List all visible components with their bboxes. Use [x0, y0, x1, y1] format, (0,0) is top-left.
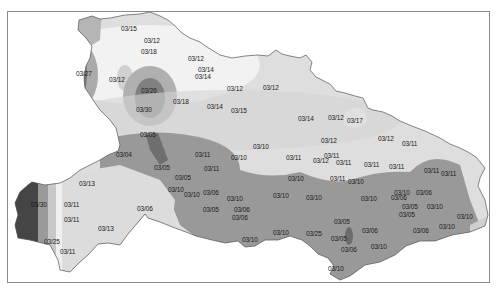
date-label: 03/10 [253, 143, 269, 150]
date-label: 03/10 [288, 175, 304, 182]
date-label: 03/05 [334, 218, 350, 225]
date-label: 03/10 [348, 178, 364, 185]
date-label: 03/11 [195, 151, 210, 158]
date-label: 03/12 [227, 85, 243, 92]
date-label: 03/15 [231, 107, 247, 114]
date-label: 03/10 [231, 154, 247, 161]
date-label: 03/05 [154, 164, 170, 171]
date-label: 03/06 [137, 205, 153, 212]
date-label: 03/30 [31, 201, 47, 208]
date-label: 03/15 [121, 25, 137, 32]
date-label: 03/05 [399, 211, 415, 218]
date-label: 03/12 [188, 55, 204, 62]
date-label: 03/06 [234, 206, 250, 213]
date-label: 03/10 [273, 192, 289, 199]
date-label: 03/05 [402, 203, 418, 210]
date-label: 03/04 [116, 151, 132, 158]
date-label: 03/13 [98, 225, 114, 232]
date-label: 03/11 [364, 161, 379, 168]
date-label: 03/11 [64, 216, 79, 223]
date-label: 03/05 [140, 131, 156, 138]
date-label: 03/11 [64, 201, 79, 208]
date-label: 03/11 [204, 165, 219, 172]
date-label: 03/12 [321, 137, 337, 144]
date-label: 03/06 [362, 227, 378, 234]
date-label: 03/25 [44, 238, 60, 245]
date-label: 03/06 [232, 214, 248, 221]
date-label: 03/10 [328, 265, 344, 272]
date-label: 03/06 [413, 227, 429, 234]
date-label: 03/10 [427, 203, 443, 210]
date-label: 03/10 [361, 195, 377, 202]
date-label: 03/12 [378, 135, 394, 142]
date-label: 03/10 [184, 191, 200, 198]
date-label: 03/26 [141, 87, 157, 94]
date-label: 03/11 [286, 154, 301, 161]
date-label: 03/05 [331, 235, 347, 242]
date-label: 03/14 [298, 115, 314, 122]
date-label: 03/27 [76, 70, 92, 77]
date-label: 03/10 [457, 213, 473, 220]
date-label: 03/11 [336, 159, 351, 166]
date-label: 03/11 [441, 170, 456, 177]
date-label: 03/11 [60, 248, 75, 255]
date-label: 03/10 [227, 195, 243, 202]
date-label: 03/11 [424, 167, 439, 174]
date-label: 03/12 [328, 114, 344, 121]
date-label: 03/10 [273, 229, 289, 236]
date-label: 03/10 [439, 223, 455, 230]
date-label: 03/11 [330, 175, 345, 182]
date-label: 03/14 [198, 66, 214, 73]
date-label: 03/14 [195, 73, 211, 80]
date-label: 03/12 [109, 76, 125, 83]
date-label: 03/06 [341, 246, 357, 253]
date-label: 03/30 [136, 106, 152, 113]
date-label: 03/13 [79, 180, 95, 187]
date-label: 03/06 [391, 194, 407, 201]
date-label: 03/12 [263, 84, 279, 91]
date-label: 03/18 [173, 98, 189, 105]
date-label: 03/05 [175, 174, 191, 181]
date-label: 03/10 [371, 243, 387, 250]
date-label: 03/11 [402, 140, 417, 147]
date-label: 03/14 [207, 103, 223, 110]
date-label: 03/06 [203, 189, 219, 196]
date-label: 03/10 [242, 236, 258, 243]
date-label: 03/17 [347, 117, 363, 124]
date-label: 03/10 [306, 194, 322, 201]
date-label: 03/25 [306, 230, 322, 237]
date-label: 03/12 [313, 157, 329, 164]
date-label: 03/06 [416, 189, 432, 196]
date-label: 03/10 [168, 186, 184, 193]
date-label: 03/11 [389, 163, 404, 170]
date-label: 03/12 [144, 37, 160, 44]
date-label: 03/18 [141, 48, 157, 55]
date-label: 03/05 [203, 206, 219, 213]
